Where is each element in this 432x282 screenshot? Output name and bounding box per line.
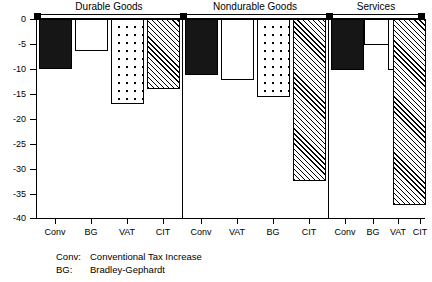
group-title-nondurable-goods: Nondurable Goods	[182, 1, 328, 13]
x-tick-label-7: CIT	[289, 227, 329, 237]
x-tick-label-11: CIT	[400, 227, 432, 237]
bar-nondurable-cit[interactable]	[293, 19, 326, 181]
y-axis-line	[36, 19, 37, 219]
y-tick-label-0: 0	[0, 15, 26, 24]
x-tick-1	[91, 219, 92, 224]
legend-desc-conv: Conventional Tax Increase	[90, 250, 202, 263]
x-tick-11	[420, 219, 421, 224]
legend-key-bg: BG:	[56, 263, 90, 276]
y-tick-4	[30, 119, 36, 120]
y-tick-label-5: -25	[0, 140, 26, 149]
bar-nondurable-bg[interactable]	[257, 19, 290, 97]
bar-services-cit[interactable]	[393, 19, 426, 205]
bar-durable-conv[interactable]	[39, 19, 72, 69]
x-tick-label-3: CIT	[143, 227, 183, 237]
group-title-services: Services	[328, 1, 424, 13]
x-tick-label-5: VAT	[217, 227, 257, 237]
y-tick-8	[30, 218, 36, 219]
group-title-durable-goods: Durable Goods	[36, 1, 182, 13]
y-tick-0	[30, 19, 36, 20]
bar-services-conv[interactable]	[331, 19, 364, 70]
x-tick-5	[237, 219, 238, 224]
group-separator-1	[182, 19, 183, 218]
legend: Conv: Conventional Tax Increase BG: Brad…	[56, 250, 202, 276]
x-tick-9	[373, 219, 374, 224]
legend-row-bg: BG: Bradley-Gephardt	[56, 263, 202, 276]
y-tick-label-4: -20	[0, 115, 26, 124]
y-tick-label-6: -30	[0, 165, 26, 174]
x-tick-7	[309, 219, 310, 224]
x-tick-8	[345, 219, 346, 224]
x-tick-label-1: BG	[71, 227, 111, 237]
bar-durable-vat[interactable]	[111, 19, 144, 104]
x-tick-2	[127, 219, 128, 224]
y-tick-label-3: -15	[0, 90, 26, 99]
y-tick-label-8: -40	[0, 214, 26, 223]
x-tick-10	[398, 219, 399, 224]
x-tick-label-4: Conv	[181, 227, 221, 237]
y-tick-label-1: -5	[0, 40, 26, 49]
x-tick-label-6: BG	[253, 227, 293, 237]
y-tick-5	[30, 144, 36, 145]
y-tick-label-7: -35	[0, 190, 26, 199]
bar-durable-bg[interactable]	[75, 19, 108, 51]
y-tick-2	[30, 69, 36, 70]
legend-key-conv: Conv:	[56, 250, 90, 263]
y-tick-label-2: -10	[0, 65, 26, 74]
y-tick-6	[30, 169, 36, 170]
bar-durable-cit[interactable]	[147, 19, 180, 89]
legend-row-conv: Conv: Conventional Tax Increase	[56, 250, 202, 263]
y-tick-7	[30, 194, 36, 195]
x-tick-0	[55, 219, 56, 224]
x-tick-label-0: Conv	[35, 227, 75, 237]
group-separator-2	[328, 19, 329, 218]
bar-nondurable-conv[interactable]	[185, 19, 218, 75]
legend-desc-bg: Bradley-Gephardt	[90, 263, 165, 276]
x-axis-line	[36, 218, 425, 219]
bar-nondurable-vat[interactable]	[221, 19, 254, 80]
x-tick-3	[163, 219, 164, 224]
y-tick-3	[30, 94, 36, 95]
x-tick-label-2: VAT	[107, 227, 147, 237]
y-tick-1	[30, 44, 36, 45]
x-tick-4	[201, 219, 202, 224]
x-tick-6	[273, 219, 274, 224]
